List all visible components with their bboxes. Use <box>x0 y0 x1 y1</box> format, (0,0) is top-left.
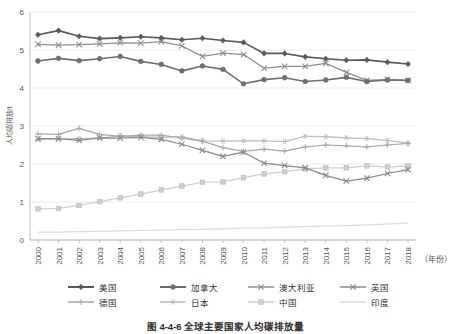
data-point-中国-3 <box>97 199 102 204</box>
caption-label: 图 4-4-6 全球主要国家人均碳排放量 <box>147 321 304 332</box>
data-point-德国-14 <box>323 142 329 148</box>
legend-label-加拿大: 加拿大 <box>191 283 218 293</box>
data-point-加拿大-7 <box>179 69 184 74</box>
data-point-德国-7 <box>179 135 185 141</box>
data-point-加拿大-1 <box>56 56 61 61</box>
legend-label-中国: 中国 <box>279 298 297 308</box>
data-point-加拿大-11 <box>262 77 267 82</box>
x-tick-label-2002: 2002 <box>75 246 84 264</box>
data-point-德国-17 <box>384 142 390 148</box>
data-point-加拿大-13 <box>303 79 308 84</box>
data-point-加拿大-6 <box>159 62 164 67</box>
legend-label-英国: 英国 <box>371 283 389 293</box>
data-point-美国-16 <box>364 57 369 63</box>
data-point-中国-9 <box>221 180 226 185</box>
legend-item-澳大利亚[interactable]: 澳大利亚 <box>248 283 315 293</box>
data-point-中国-15 <box>344 166 349 171</box>
data-point-美国-18 <box>405 61 410 67</box>
y-tick-label-0: 0 <box>20 236 25 245</box>
data-point-德国-legend <box>78 299 84 305</box>
series-line-英国 <box>38 137 408 181</box>
data-point-德国-16 <box>364 144 370 150</box>
data-point-美国-7 <box>179 37 184 43</box>
data-point-加拿大-9 <box>221 67 226 72</box>
x-tick-label-2011: 2011 <box>260 246 269 264</box>
x-tick-label-2016: 2016 <box>363 246 372 264</box>
y-tick-label-3: 3 <box>20 122 25 131</box>
x-tick-label-2003: 2003 <box>96 246 105 264</box>
data-point-美国-11 <box>262 51 267 57</box>
data-point-加拿大-14 <box>323 78 328 83</box>
y-tick-label-5: 5 <box>20 46 25 55</box>
legend-item-加拿大[interactable]: 加拿大 <box>160 283 218 293</box>
data-point-日本-legend <box>170 299 176 304</box>
series-澳大利亚 <box>35 39 410 83</box>
data-point-加拿大-16 <box>364 79 369 84</box>
x-tick-label-2017: 2017 <box>383 246 392 264</box>
x-axis-title: （年份） <box>420 254 451 264</box>
data-point-美国-12 <box>282 51 287 57</box>
data-point-加拿大-10 <box>241 81 246 86</box>
x-tick-label-2000: 2000 <box>34 246 43 264</box>
data-point-美国-8 <box>200 35 205 41</box>
data-point-美国-13 <box>303 54 308 60</box>
legend-item-印度[interactable]: 印度 <box>340 298 389 308</box>
legend-label-印度: 印度 <box>371 298 389 308</box>
data-point-德国-15 <box>343 143 349 149</box>
data-point-中国-5 <box>138 192 143 197</box>
data-point-日本-12 <box>282 139 288 144</box>
x-tick-label-2015: 2015 <box>342 246 351 264</box>
x-tick-label-2009: 2009 <box>219 246 228 264</box>
data-point-德国-18 <box>405 140 411 146</box>
x-tick-label-2006: 2006 <box>157 246 166 264</box>
gridlines <box>30 12 416 240</box>
data-point-德国-9 <box>220 145 226 151</box>
data-point-美国-5 <box>138 34 143 40</box>
data-point-美国-4 <box>118 35 123 41</box>
legend-item-美国[interactable]: 美国 <box>68 283 117 293</box>
data-point-美国-14 <box>323 56 328 62</box>
legend-label-德国: 德国 <box>99 298 117 308</box>
data-point-加拿大-2 <box>77 58 82 63</box>
data-point-加拿大-4 <box>118 54 123 59</box>
data-point-美国-legend <box>78 284 83 290</box>
data-point-美国-9 <box>220 38 225 44</box>
data-point-中国-0 <box>36 207 41 212</box>
data-point-德国-8 <box>199 138 205 144</box>
legend-item-中国[interactable]: 中国 <box>248 298 297 308</box>
data-point-加拿大-legend <box>171 285 176 290</box>
data-point-美国-2 <box>77 34 82 40</box>
series-line-印度 <box>38 223 408 232</box>
series-印度 <box>38 223 408 232</box>
legend-item-德国[interactable]: 德国 <box>68 298 117 308</box>
data-point-日本-10 <box>241 138 247 143</box>
data-point-中国-7 <box>180 184 185 189</box>
legend-item-日本[interactable]: 日本 <box>160 298 209 308</box>
data-point-中国-8 <box>200 180 205 185</box>
series-美国 <box>35 28 410 67</box>
data-point-中国-4 <box>118 196 123 201</box>
data-point-加拿大-5 <box>138 59 143 64</box>
figure-caption: 图 4-4-6 全球主要国家人均碳排放量 <box>0 316 451 334</box>
data-point-中国-1 <box>56 206 61 211</box>
y-tick-label-1: 1 <box>20 198 25 207</box>
data-point-加拿大-3 <box>97 56 102 61</box>
data-point-日本-16 <box>364 136 370 141</box>
data-point-中国-17 <box>385 165 390 170</box>
data-point-中国-10 <box>241 175 246 180</box>
data-point-加拿大-8 <box>200 64 205 69</box>
legend-item-英国[interactable]: 英国 <box>340 283 389 293</box>
x-tick-label-2014: 2014 <box>322 246 331 264</box>
series-中国 <box>36 164 411 212</box>
legend-label-美国: 美国 <box>99 283 117 293</box>
data-point-中国-2 <box>77 203 82 208</box>
data-point-美国-10 <box>241 40 246 46</box>
data-point-日本-15 <box>343 135 349 140</box>
data-point-加拿大-15 <box>344 75 349 80</box>
data-point-美国-3 <box>97 36 102 42</box>
data-point-加拿大-18 <box>406 78 411 83</box>
legend-label-澳大利亚: 澳大利亚 <box>279 283 315 293</box>
data-point-中国-12 <box>282 169 287 174</box>
y-tick-label-2: 2 <box>20 160 25 169</box>
x-tick-label-2013: 2013 <box>301 246 310 264</box>
